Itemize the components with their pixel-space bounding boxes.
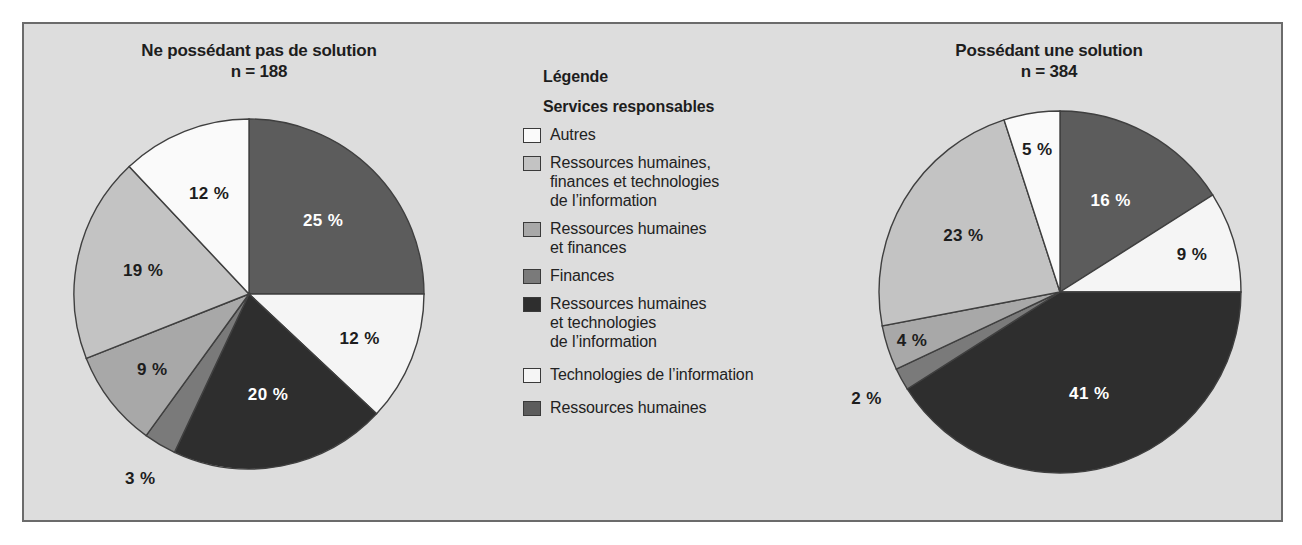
legend-label-rh-ti: Ressources humaineset technologiesde l’i…: [550, 294, 706, 351]
chart-subtitle-right-text: n = 384: [814, 61, 1284, 82]
pie-slice-label: 16 %: [1090, 191, 1130, 210]
pie-slice-label: 9 %: [1177, 245, 1208, 264]
chart-panel-left: Ne possédant pas de solution n = 188 25 …: [24, 24, 494, 520]
pie-slice-label: 12 %: [339, 329, 379, 348]
legend-swatch-rh-finances: [523, 222, 541, 237]
legend-item-rh-finances-ti[interactable]: Ressources humaines,finances et technolo…: [521, 153, 831, 210]
legend-swatch-rh-ti: [523, 297, 541, 312]
pie-chart-right: 16 %9 %41 %2 %4 %23 %5 %: [814, 94, 1284, 494]
pie-slice-label: 12 %: [189, 184, 229, 203]
legend-swatch-rh-finances-ti: [523, 156, 541, 171]
legend-label-autres: Autres: [550, 125, 596, 144]
legend-label-ti: Technologies de l’information: [550, 365, 753, 384]
pie-slice[interactable]: [249, 119, 424, 294]
legend-label-rh: Ressources humaines: [550, 398, 706, 417]
pie-slice-label: 5 %: [1022, 140, 1053, 159]
legend-label-finances: Finances: [550, 266, 614, 285]
legend-swatch-autres: [523, 128, 541, 143]
legend-swatch-rh: [523, 401, 541, 416]
legend-label-rh-finances-ti: Ressources humaines,finances et technolo…: [550, 153, 719, 210]
legend-label-rh-finances: Ressources humaineset finances: [550, 219, 706, 257]
legend-heading: Légende: [543, 68, 831, 86]
pie-slice-label: 2 %: [851, 389, 882, 408]
pie-chart-left: 25 %12 %20 %3 %9 %19 %12 %: [24, 102, 494, 502]
pie-slice-label: 19 %: [123, 261, 163, 280]
legend-swatch-finances: [523, 269, 541, 284]
legend-item-ti[interactable]: Technologies de l’information: [521, 365, 831, 384]
legend-subheading: Services responsables: [543, 98, 831, 116]
chart-title-right: Possédant une solution n = 384: [814, 40, 1284, 82]
chart-subtitle-left-text: n = 188: [24, 61, 494, 82]
legend-item-finances[interactable]: Finances: [521, 266, 831, 285]
pie-slice-label: 3 %: [125, 469, 156, 488]
pie-slice-label: 4 %: [897, 331, 928, 350]
legend-swatch-ti: [523, 368, 541, 383]
chart-title-right-text: Possédant une solution: [955, 41, 1142, 60]
pie-slice-label: 25 %: [303, 211, 343, 230]
figure-frame: Ne possédant pas de solution n = 188 25 …: [22, 22, 1283, 522]
pie-slice-label: 20 %: [248, 385, 288, 404]
legend-item-rh-finances[interactable]: Ressources humaineset finances: [521, 219, 831, 257]
pie-slice-label: 41 %: [1069, 384, 1109, 403]
pie-slice-label: 9 %: [137, 360, 168, 379]
pie-slice-label: 23 %: [943, 226, 983, 245]
chart-panel-right: Possédant une solution n = 384 16 %9 %41…: [814, 24, 1284, 520]
legend-item-autres[interactable]: Autres: [521, 125, 831, 144]
legend-item-rh[interactable]: Ressources humaines: [521, 398, 831, 417]
chart-title-left-text: Ne possédant pas de solution: [141, 41, 376, 60]
legend: Légende Services responsables Autres Res…: [521, 68, 831, 426]
legend-item-rh-ti[interactable]: Ressources humaineset technologiesde l’i…: [521, 294, 831, 351]
chart-title-left: Ne possédant pas de solution n = 188: [24, 40, 494, 82]
